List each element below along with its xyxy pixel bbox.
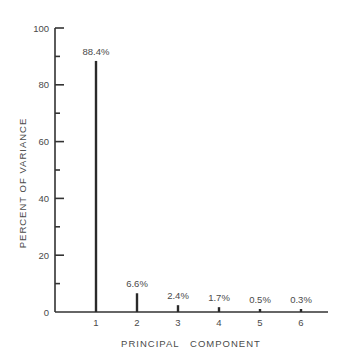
x-axis-title: PRINCIPAL COMPONENT bbox=[121, 338, 261, 349]
x-tick-label: 3 bbox=[175, 317, 180, 328]
x-tick-label: 5 bbox=[257, 317, 262, 328]
x-tick-label: 4 bbox=[216, 317, 221, 328]
x-axis: 123456 PRINCIPAL COMPONENT bbox=[55, 312, 328, 349]
bar-value-label: 1.7% bbox=[208, 292, 230, 303]
x-tick-label: 1 bbox=[93, 317, 98, 328]
bar-series bbox=[96, 61, 301, 312]
x-tick-label: 6 bbox=[298, 317, 303, 328]
y-axis-tick-labels: 020406080100 bbox=[33, 23, 49, 318]
bar-value-label: 0.5% bbox=[249, 294, 271, 305]
x-tick-label: 2 bbox=[134, 317, 139, 328]
y-tick-label: 40 bbox=[38, 193, 49, 204]
x-axis-tick-labels: 123456 bbox=[93, 317, 303, 328]
scree-chart: 020406080100 PERCENT OF VARIANCE 123456 … bbox=[0, 0, 346, 363]
y-axis-title: PERCENT OF VARIANCE bbox=[17, 118, 28, 249]
y-tick-label: 0 bbox=[44, 307, 49, 318]
bar-value-label: 88.4% bbox=[83, 46, 110, 57]
bar-value-label: 0.3% bbox=[290, 294, 312, 305]
y-tick-label: 100 bbox=[33, 23, 49, 34]
y-tick-label: 60 bbox=[38, 136, 49, 147]
bar-value-labels: 88.4%6.6%2.4%1.7%0.5%0.3% bbox=[83, 46, 313, 305]
bar-value-label: 6.6% bbox=[126, 278, 148, 289]
y-tick-label: 20 bbox=[38, 250, 49, 261]
bar-value-label: 2.4% bbox=[167, 290, 189, 301]
y-axis: 020406080100 PERCENT OF VARIANCE bbox=[17, 23, 64, 318]
y-tick-label: 80 bbox=[38, 79, 49, 90]
y-axis-ticks bbox=[55, 28, 64, 284]
